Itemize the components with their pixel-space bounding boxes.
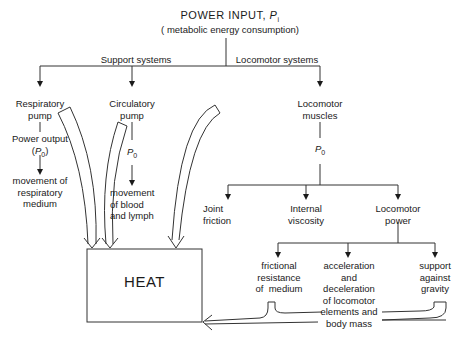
support-systems-label: Support systems [96, 54, 176, 66]
circulatory-heat-flow [105, 122, 128, 244]
circulatory-result-label: movement of blood and lymph [110, 187, 165, 222]
circulatory-pump-label: Circulatory pump [97, 98, 167, 121]
internal-viscosity-label: Internal viscosity [276, 203, 336, 226]
respiratory-pump-label: Respiratory pump [5, 98, 75, 121]
frictional-resistance-label: frictional resistance of medium [248, 260, 310, 295]
circulatory-output-label: P0 [122, 146, 142, 161]
diagram-lines [0, 0, 466, 337]
respiratory-output-label: Power output (P0) [5, 133, 75, 160]
respiratory-result-label: movement of respiratory medium [2, 175, 78, 210]
locomotor-output-label: P0 [310, 143, 330, 158]
power-input-subtitle: ( metabolic energy consumption) [150, 24, 310, 36]
p-subscript: 0 [321, 149, 325, 156]
locomotor-systems-label: Locomotor systems [232, 54, 322, 66]
heat-label: HEAT [87, 276, 202, 288]
support-gravity-label: support against gravity [410, 260, 460, 295]
title-text: POWER INPUT, [181, 9, 270, 21]
locomotor-power-label: Locomotor power [365, 203, 431, 226]
return-flow-upper [205, 302, 322, 321]
joint-friction-label: Joint friction [203, 203, 253, 226]
acceleration-label: acceleration and deceleration of locomot… [315, 260, 383, 329]
title-subscript: i [277, 16, 279, 23]
locomotor-muscles-label: Locomotor muscles [285, 98, 355, 121]
p-subscript: 0 [133, 152, 137, 159]
output-close: ) [45, 145, 48, 156]
